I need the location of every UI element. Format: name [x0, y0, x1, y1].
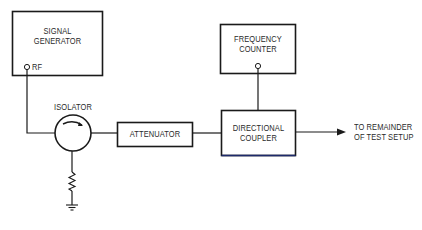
frequency-counter-label: FREQUENCY COUNTER: [225, 34, 292, 54]
rf-port-label: RF: [32, 62, 42, 72]
directional-coupler-line2: COUPLER: [226, 133, 292, 143]
resistor-icon: [69, 172, 75, 191]
output-arrowhead-icon: [337, 129, 346, 136]
directional-coupler-label: DIRECTIONAL COUPLER: [226, 123, 292, 143]
directional-coupler-line1: DIRECTIONAL: [226, 123, 292, 133]
output-label: TO REMAINDER OF TEST SETUP: [354, 122, 413, 142]
frequency-counter-line2: COUNTER: [225, 44, 292, 54]
attenuator-label: ATTENUATOR: [122, 129, 189, 139]
signal-generator-line1: SIGNAL: [17, 26, 97, 36]
rf-port-icon: [24, 64, 29, 69]
signal-generator-line2: GENERATOR: [17, 36, 97, 46]
frequency-counter-line1: FREQUENCY: [225, 34, 292, 44]
output-line1: TO REMAINDER: [354, 122, 413, 132]
ground-icon: [66, 205, 78, 210]
isolator-label: ISOLATOR: [47, 102, 100, 112]
diagram-canvas: SIGNAL GENERATOR RF ISOLATOR ATTENUATOR …: [0, 0, 422, 230]
counter-port-icon: [255, 63, 260, 68]
signal-generator-label: SIGNAL GENERATOR: [17, 26, 97, 46]
isolator-circle-icon: [55, 115, 91, 151]
output-line2: OF TEST SETUP: [354, 132, 413, 142]
